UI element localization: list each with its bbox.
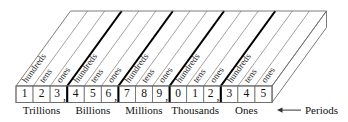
digit-value: 4 xyxy=(244,87,250,99)
digit-separator: , xyxy=(165,90,168,103)
digit-separator: , xyxy=(63,90,66,103)
digit-value: 3 xyxy=(54,87,60,99)
period-label-trillions: Trillions xyxy=(23,104,61,116)
digit-value: 8 xyxy=(141,87,147,99)
periods-callout-label: Periods xyxy=(305,104,338,116)
left-arrow-icon xyxy=(277,108,283,113)
digit-value: 1 xyxy=(192,87,198,99)
digit-value: 0 xyxy=(175,87,181,99)
period-label-millions: Millions xyxy=(125,104,162,116)
digit-value: 5 xyxy=(261,87,267,99)
digit-value: 4 xyxy=(73,87,79,99)
digit-value: 2 xyxy=(39,87,45,99)
digit-value: 2 xyxy=(208,87,214,99)
place-value-diagram: hundredstensoneshundredstensoneshundreds… xyxy=(0,0,348,122)
period-label-billions: Billions xyxy=(75,104,110,116)
digit-separator: , xyxy=(114,90,117,103)
digit-value: 9 xyxy=(157,87,163,99)
digit-value: 3 xyxy=(226,87,232,99)
digit-value: 6 xyxy=(105,87,111,99)
place-value-chart: hundredstensoneshundredstensoneshundreds… xyxy=(0,0,348,122)
period-label-thousands: Thousands xyxy=(171,104,219,116)
period-label-ones: Ones xyxy=(235,104,258,116)
digit-value: 5 xyxy=(90,87,96,99)
digit-value: 1 xyxy=(22,87,28,99)
digit-separator: , xyxy=(217,90,220,103)
digit-value: 7 xyxy=(124,87,130,99)
